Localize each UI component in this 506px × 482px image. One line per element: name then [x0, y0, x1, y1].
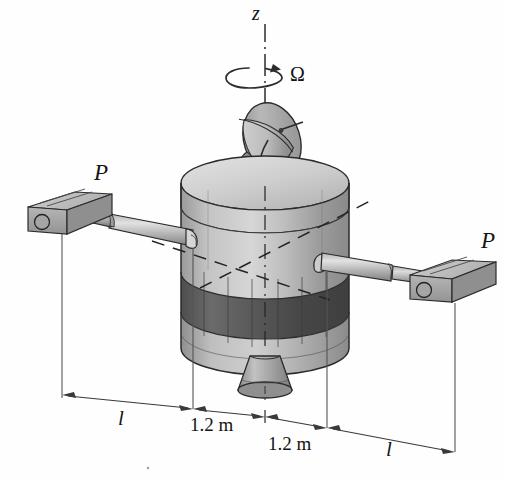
- force-label-p-left: P: [94, 160, 108, 186]
- scan-artifact: [147, 467, 149, 469]
- axis-label-z: z: [252, 2, 260, 25]
- handle-left: [28, 189, 112, 234]
- dimension-label-l-left: l: [118, 406, 124, 431]
- spin-direction-arrow: [226, 64, 282, 88]
- spin-rate-label-omega: Ω: [290, 63, 305, 86]
- dimension-label-l-right: l: [386, 437, 392, 462]
- dimension-label-radius-right: 1.2 m: [268, 433, 311, 455]
- dimension-label-radius-left: 1.2 m: [190, 414, 233, 436]
- spacecraft-diagram: [0, 0, 506, 482]
- force-label-p-right: P: [481, 228, 495, 254]
- handle-right: [410, 257, 496, 302]
